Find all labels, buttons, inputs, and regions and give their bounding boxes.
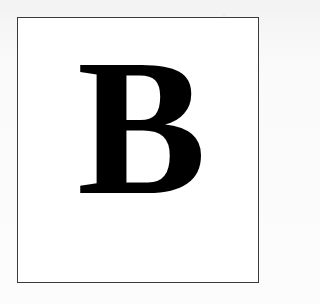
letter-glyph: B	[77, 48, 201, 208]
letter-frame: B	[17, 17, 259, 283]
